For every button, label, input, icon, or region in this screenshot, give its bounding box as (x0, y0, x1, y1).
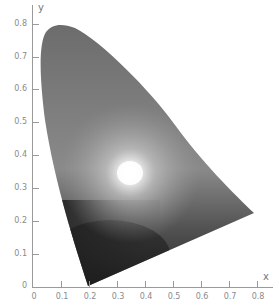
chromaticity-diagram (0, 0, 279, 307)
y-tick-label: 0.4 (14, 151, 27, 159)
y-tick-label: 0 (22, 282, 27, 290)
y-tick-label: 0.5 (14, 118, 27, 126)
y-tick-label: 0.6 (14, 85, 27, 93)
y-tick-label: 0.1 (14, 250, 27, 258)
x-tick-label: 0.1 (56, 293, 69, 301)
x-tick-label: 0.4 (140, 293, 153, 301)
x-axis-title: x (263, 272, 269, 282)
y-tick-label: 0.7 (14, 53, 27, 61)
x-tick-label: 0.7 (224, 293, 237, 301)
x-tick-label: 0 (31, 293, 36, 301)
x-tick-label: 0.3 (112, 293, 125, 301)
x-tick-label: 0.2 (84, 293, 97, 301)
y-tick-label: 0.8 (14, 20, 27, 28)
x-tick-label: 0.8 (252, 293, 265, 301)
x-tick-label: 0.5 (168, 293, 181, 301)
locus-shape (30, 15, 260, 295)
y-tick-label: 0.3 (14, 184, 27, 192)
y-tick-label: 0.2 (14, 217, 27, 225)
y-axis-title: y (38, 3, 44, 13)
x-tick-label: 0.6 (196, 293, 209, 301)
